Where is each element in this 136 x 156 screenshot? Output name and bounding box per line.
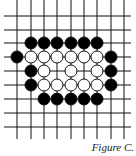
white-stone	[38, 51, 50, 63]
white-stone	[51, 79, 63, 91]
white-stone	[91, 51, 103, 63]
black-stone	[25, 79, 37, 91]
white-stone	[38, 65, 50, 77]
go-board-diagram	[0, 0, 136, 156]
black-stone	[38, 37, 50, 49]
black-stone	[91, 93, 103, 105]
black-stone	[11, 51, 23, 63]
black-stone	[51, 93, 63, 105]
black-stone	[65, 93, 77, 105]
black-stone	[51, 37, 63, 49]
figure-caption: Figure C.	[92, 141, 134, 153]
white-stone	[78, 51, 90, 63]
white-stone	[65, 65, 77, 77]
white-stone	[38, 79, 50, 91]
black-stone	[25, 37, 37, 49]
black-stone	[105, 79, 117, 91]
white-stone	[25, 51, 37, 63]
black-stone	[91, 37, 103, 49]
black-stone	[78, 93, 90, 105]
white-stone	[91, 79, 103, 91]
white-stone	[65, 51, 77, 63]
white-stone	[65, 79, 77, 91]
black-stone	[105, 51, 117, 63]
white-stone	[91, 65, 103, 77]
black-stone	[25, 65, 37, 77]
white-stone	[51, 51, 63, 63]
black-stone	[78, 37, 90, 49]
white-stone	[78, 79, 90, 91]
black-stone	[65, 37, 77, 49]
black-stone	[38, 93, 50, 105]
black-stone	[105, 65, 117, 77]
